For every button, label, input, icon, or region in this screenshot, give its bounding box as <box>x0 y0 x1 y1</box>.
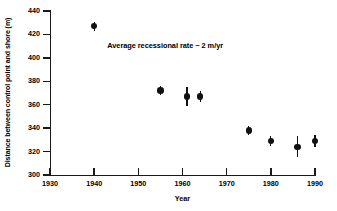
data-point <box>184 93 191 100</box>
x-axis-tick <box>270 168 271 176</box>
data-point <box>246 127 253 134</box>
y-axis-tick-label: 340 <box>10 124 40 132</box>
data-point <box>91 23 98 30</box>
y-axis-tick-label: 420 <box>10 30 40 38</box>
x-axis-tick-label: 1930 <box>30 179 70 188</box>
y-axis-tick <box>43 127 51 128</box>
x-axis-tick-label: 1950 <box>118 179 158 188</box>
y-axis-tick-label: 320 <box>10 148 40 156</box>
y-axis-tick-label: 400 <box>10 54 40 62</box>
y-axis-tick <box>43 151 51 152</box>
chart-figure: Distance between control point and shore… <box>0 0 337 211</box>
data-point <box>312 138 319 145</box>
data-point <box>268 138 275 145</box>
y-axis-tick <box>43 10 51 11</box>
chart-annotation: Average recessional rate ~ 2 m/yr <box>107 41 223 50</box>
data-point <box>197 93 204 100</box>
x-axis-tick <box>314 168 315 176</box>
x-axis-tick <box>49 168 50 176</box>
y-axis-tick <box>43 81 51 82</box>
x-axis-tick-label: 1980 <box>251 179 291 188</box>
x-axis-tick <box>138 168 139 176</box>
x-axis-tick-label: 1990 <box>295 179 335 188</box>
data-point <box>157 87 164 94</box>
y-axis-tick <box>43 104 51 105</box>
y-axis-tick-label: 440 <box>10 7 40 15</box>
x-axis-tick-label: 1970 <box>207 179 247 188</box>
x-axis-tick-label: 1940 <box>74 179 114 188</box>
y-axis-tick-label: 380 <box>10 77 40 85</box>
x-axis-tick <box>93 168 94 176</box>
x-axis-tick <box>226 168 227 176</box>
y-axis-tick <box>43 34 51 35</box>
data-point <box>294 144 301 151</box>
y-axis-tick-label: 360 <box>10 101 40 109</box>
x-axis-tick <box>182 168 183 176</box>
y-axis-tick-label: 300 <box>10 171 40 179</box>
x-axis-label: Year <box>50 194 315 203</box>
y-axis-tick <box>43 57 51 58</box>
x-axis-tick-label: 1960 <box>163 179 203 188</box>
